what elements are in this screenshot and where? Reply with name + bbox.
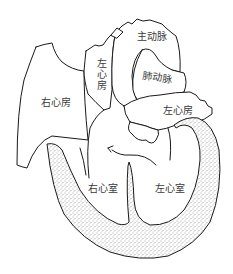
- label-left-atrium: 左心房: [163, 106, 193, 116]
- label-left-atrium-vertical: 左心房: [96, 58, 107, 91]
- label-right-atrium: 右心房: [41, 98, 71, 108]
- label-right-ventricle: 右心室: [88, 184, 118, 194]
- label-aorta: 主动脉: [137, 32, 167, 42]
- interventricular-line: [80, 148, 86, 175]
- blood-flow-arrow: [112, 150, 156, 165]
- left-ventricle-inner-wall: [168, 128, 171, 160]
- heart-diagram: [0, 0, 233, 274]
- arrow-head-icon: [108, 146, 113, 152]
- right-ventricle-inner-wall: [88, 110, 104, 178]
- label-left-ventricle: 左心室: [155, 184, 185, 194]
